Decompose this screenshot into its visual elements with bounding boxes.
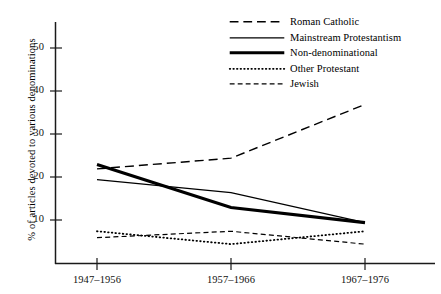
x-tick-label-1967-1976: 1967–1976 (320, 274, 410, 285)
legend-item-jewish: Jewish (228, 76, 433, 92)
legend-swatch-short-dashed-icon (228, 76, 286, 92)
legend-item-non-denominational: Non-denominational (228, 45, 433, 61)
data-series (97, 104, 365, 244)
series-line-jewish (97, 231, 365, 244)
series-line-mainstream-protestantism (97, 180, 365, 223)
legend-label-mainstream-protestantism: Mainstream Protestantism (290, 30, 401, 46)
y-axis-title: % of articles devoted to various denomin… (26, 35, 37, 245)
chart-legend: Roman Catholic Mainstream Protestantism … (228, 14, 433, 92)
legend-swatch-solid-thin-icon (228, 30, 286, 46)
legend-label-jewish: Jewish (290, 76, 319, 92)
series-line-roman-catholic (97, 104, 365, 168)
x-tick-label-1957-1966: 1957–1966 (186, 274, 276, 285)
legend-item-mainstream-protestantism: Mainstream Protestantism (228, 30, 433, 46)
legend-swatch-long-dashed-icon (228, 14, 286, 30)
legend-swatch-dotted-icon (228, 61, 286, 77)
series-line-other-protestant (97, 231, 365, 244)
legend-label-other-protestant: Other Protestant (290, 61, 359, 77)
legend-label-roman-catholic: Roman Catholic (290, 14, 359, 30)
legend-swatch-solid-thick-icon (228, 45, 286, 61)
legend-label-non-denominational: Non-denominational (290, 45, 378, 61)
chart-figure: 50 40 30 20 10 1947–1956 1957–1966 1967–… (0, 0, 441, 294)
x-tick-label-1947-1956: 1947–1956 (52, 274, 142, 285)
legend-item-roman-catholic: Roman Catholic (228, 14, 433, 30)
legend-item-other-protestant: Other Protestant (228, 61, 433, 77)
